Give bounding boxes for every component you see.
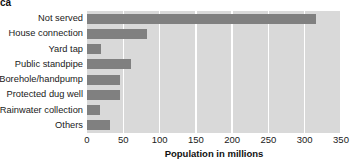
bar — [87, 14, 316, 24]
category-axis-labels: Not servedHouse connectionYard tapPublic… — [0, 11, 85, 133]
category-label: Public standpipe — [15, 59, 83, 69]
bar — [87, 44, 101, 54]
category-label: Not served — [38, 13, 83, 23]
plot-area — [87, 11, 341, 133]
x-axis-tick-labels: 050100150200250300350 — [87, 134, 341, 148]
chart-title: ca — [0, 0, 11, 9]
x-axis-title: Population in millions — [87, 148, 341, 159]
x-tick-label: 200 — [224, 134, 240, 145]
x-tick-label: 0 — [84, 134, 89, 145]
bar — [87, 75, 120, 85]
bar — [87, 59, 131, 69]
chart-figure: ca Not servedHouse connectionYard tapPub… — [0, 0, 351, 165]
bars-layer — [87, 11, 341, 133]
x-tick-label: 150 — [188, 134, 204, 145]
bar — [87, 90, 120, 100]
category-label: Others — [55, 120, 83, 130]
bar — [87, 105, 100, 115]
x-tick-label: 350 — [333, 134, 349, 145]
category-label: Protected dug well — [7, 89, 84, 99]
x-tick-label: 300 — [297, 134, 313, 145]
category-label: Yard tap — [49, 44, 83, 54]
category-label: Rainwater collection — [0, 105, 83, 115]
bar — [87, 120, 110, 130]
category-label: House connection — [9, 28, 83, 38]
x-tick-label: 250 — [260, 134, 276, 145]
bar — [87, 29, 147, 39]
x-tick-label: 100 — [152, 134, 168, 145]
category-label: Borehole/handpump — [0, 74, 83, 84]
x-tick-label: 50 — [118, 134, 129, 145]
